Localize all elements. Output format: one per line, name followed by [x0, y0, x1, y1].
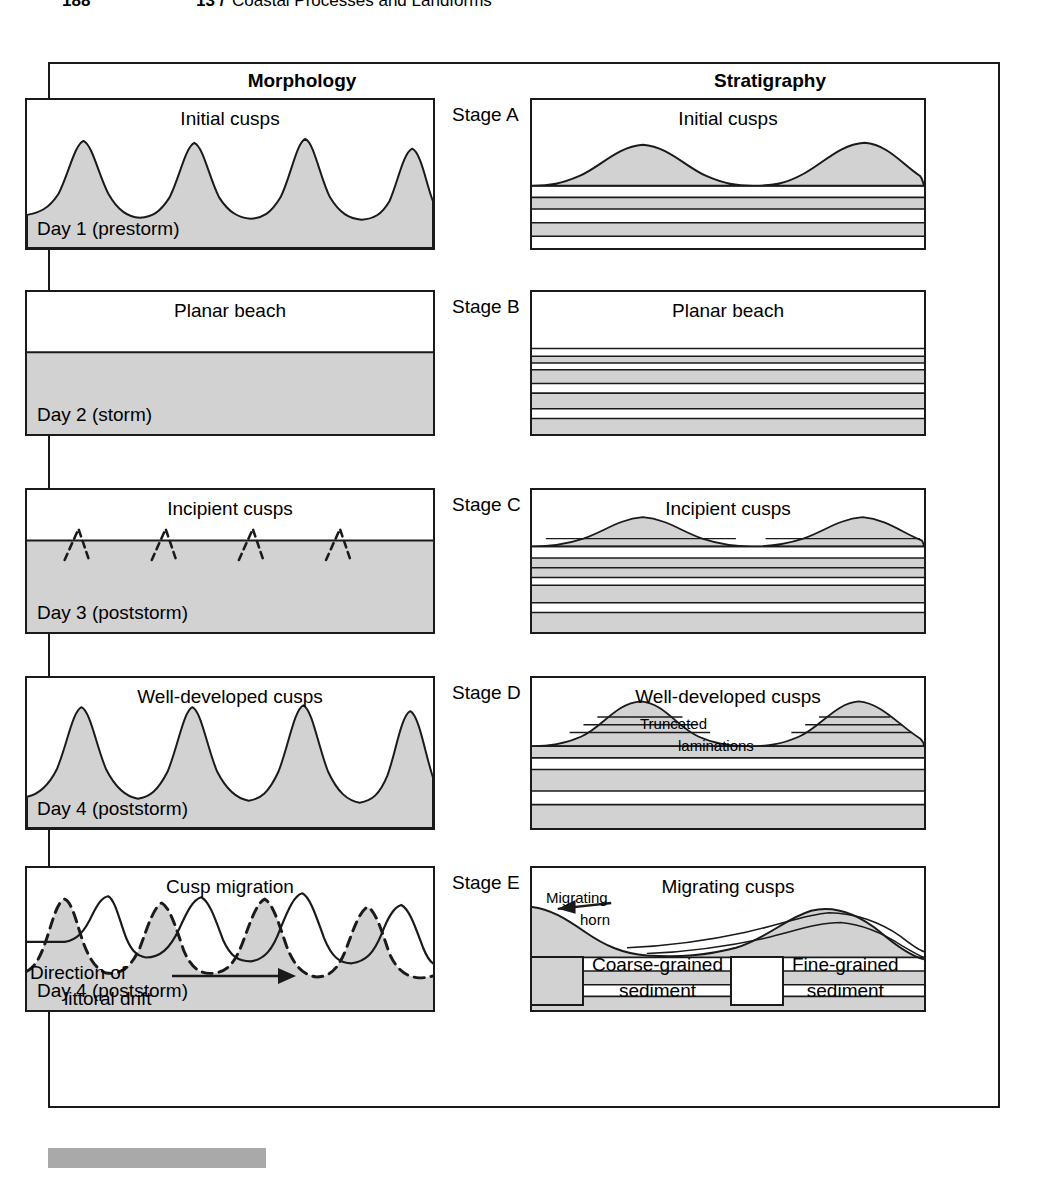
panel-morphology-b: Planar beach Day 2 (storm) [25, 290, 435, 436]
legend: Coarse-grained sediment Fine-grained sed… [530, 952, 930, 1038]
incipient-cusp-marks [27, 490, 433, 632]
stage-label-e: Stage E [452, 872, 520, 894]
stage-label-c: Stage C [452, 494, 521, 516]
stage-label-a: Stage A [452, 104, 519, 126]
panel-morphology-d: Well-developed cusps Day 4 (poststorm) [25, 676, 435, 830]
chapter-title: Coastal Processes and Landforms [232, 0, 492, 11]
cusp-profile-well-developed [27, 678, 433, 828]
planar-beach-profile [27, 292, 433, 434]
scan-artifact-bar [48, 1148, 266, 1168]
column-header-stratigraphy: Stratigraphy [560, 70, 980, 92]
stage-label-d: Stage D [452, 682, 521, 704]
chapter-number: 13 / [196, 0, 224, 11]
drift-line-1: Direction of [30, 962, 126, 984]
drift-line-2: littoral drift [64, 988, 152, 1010]
legend-fine-line2: sediment [792, 978, 899, 1004]
running-head: 188 13 / Coastal Processes and Landforms [0, 0, 1050, 14]
legend-swatch-coarse [530, 956, 584, 1006]
legend-label-coarse: Coarse-grained sediment [592, 952, 723, 1004]
legend-label-fine: Fine-grained sediment [792, 952, 899, 1004]
panel-morphology-c: Incipient cusps Day 3 (poststorm) [25, 488, 435, 634]
legend-coarse-line2: sediment [592, 978, 723, 1004]
strat-section-a [532, 100, 924, 248]
strat-section-c [532, 490, 924, 632]
column-header-morphology: Morphology [92, 70, 512, 92]
panel-stratigraphy-b: Planar beach [530, 290, 926, 436]
legend-fine-line1: Fine-grained [792, 954, 899, 975]
legend-coarse-line1: Coarse-grained [592, 954, 723, 975]
strat-section-b [532, 292, 924, 434]
cusp-profile-initial [27, 100, 433, 248]
stage-label-b: Stage B [452, 296, 520, 318]
strat-section-d [532, 678, 924, 828]
page-number: 188 [62, 0, 90, 11]
drift-arrow-icon [172, 966, 300, 986]
legend-swatch-fine [730, 956, 784, 1006]
panel-morphology-a: Initial cusps Day 1 (prestorm) [25, 98, 435, 250]
migrating-horn-arrow [558, 900, 611, 914]
panel-stratigraphy-a: Initial cusps [530, 98, 926, 250]
panel-stratigraphy-c: Incipient cusps [530, 488, 926, 634]
panel-stratigraphy-d: Well-developed cusps Truncated laminatio… [530, 676, 926, 830]
